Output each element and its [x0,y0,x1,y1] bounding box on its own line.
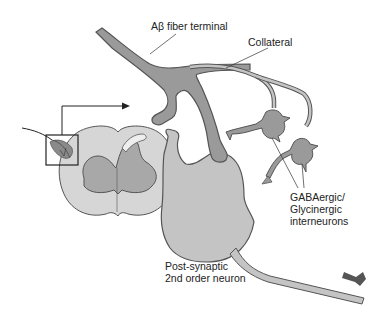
output-arrow [342,272,366,286]
label-interneurons-line3: interneurons [290,215,348,228]
label-postsynaptic-line2: 2nd order neuron [165,272,246,285]
label-postsynaptic-line1: Post-synaptic [165,260,228,273]
post-synaptic-neuron [161,129,254,262]
label-collateral: Collateral [248,36,292,49]
interneuron-1 [226,110,290,142]
label-interneurons-line1: GABAergic/ [290,191,345,204]
interneuron-2 [262,138,318,184]
spinal-cord-cross-section [59,126,175,216]
label-ab-fiber-terminal: Aβ fiber terminal [151,20,228,33]
label-interneurons-line2: Glycinergic [290,203,342,216]
dorsal-root-line [22,128,52,140]
